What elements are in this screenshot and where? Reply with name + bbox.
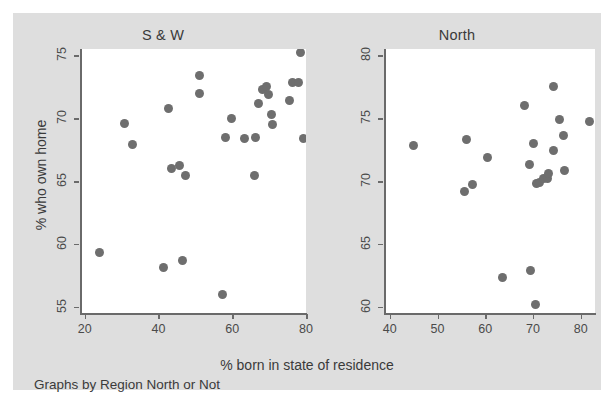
data-point	[520, 101, 529, 110]
data-point	[181, 171, 190, 180]
data-point	[195, 89, 204, 98]
data-point	[462, 135, 471, 144]
data-point	[95, 248, 104, 257]
y-tick-0	[74, 55, 79, 57]
x-tick-1	[533, 314, 535, 319]
y-tick-0	[74, 244, 79, 246]
data-point	[549, 146, 558, 155]
data-point	[240, 134, 249, 143]
data-point	[294, 78, 303, 87]
y-tick-label-0: 75	[55, 41, 69, 67]
panel-north: North	[313, 13, 601, 390]
data-point	[526, 266, 535, 275]
data-point	[159, 263, 168, 272]
x-tick-0	[232, 314, 234, 319]
data-point	[251, 133, 260, 142]
panel-title-north: North	[313, 27, 601, 43]
x-tick-1	[581, 314, 583, 319]
data-point	[468, 180, 477, 189]
y-tick-0	[74, 181, 79, 183]
data-point	[227, 114, 236, 123]
y-axis-line-0	[80, 49, 82, 313]
y-tick-label-1: 75	[359, 104, 373, 130]
graph-canvas: S & W North % who own home % born in sta…	[13, 13, 601, 390]
data-point	[120, 119, 129, 128]
x-tick-label-1: 40	[375, 322, 405, 336]
x-tick-0	[306, 314, 308, 319]
y-tick-label-0: 70	[55, 104, 69, 130]
x-axis-line-0	[80, 313, 307, 315]
x-tick-0	[85, 314, 87, 319]
data-point	[531, 300, 540, 309]
y-tick-label-0: 60	[55, 230, 69, 256]
x-tick-label-1: 80	[566, 322, 596, 336]
y-tick-label-1: 80	[359, 41, 373, 67]
x-tick-label-1: 50	[423, 322, 453, 336]
data-point	[549, 82, 558, 91]
y-tick-label-0: 65	[55, 167, 69, 193]
x-tick-1	[438, 314, 440, 319]
y-tick-label-1: 70	[359, 167, 373, 193]
data-point	[285, 96, 294, 105]
data-point	[221, 133, 230, 142]
y-axis-title: % who own home	[33, 75, 49, 275]
data-point	[585, 117, 594, 126]
y-axis-line-1	[384, 49, 386, 313]
data-point	[555, 115, 564, 124]
data-point	[164, 104, 173, 113]
data-point	[250, 171, 259, 180]
data-point	[498, 273, 507, 282]
x-axis-title: % born in state of residence	[13, 357, 601, 373]
data-point	[529, 139, 538, 148]
y-tick-1	[378, 181, 383, 183]
x-tick-1	[485, 314, 487, 319]
x-tick-label-1: 60	[470, 322, 500, 336]
data-point	[544, 169, 553, 178]
y-tick-label-1: 60	[359, 293, 373, 319]
x-tick-label-1: 70	[518, 322, 548, 336]
x-axis-line-1	[384, 313, 596, 315]
data-point	[525, 160, 534, 169]
data-point	[195, 71, 204, 80]
plot-region-s-and-w	[81, 49, 306, 313]
y-tick-0	[74, 118, 79, 120]
data-point	[409, 141, 418, 150]
data-point	[175, 161, 184, 170]
data-point	[299, 134, 306, 143]
x-tick-label-0: 60	[217, 322, 247, 336]
x-tick-label-0: 80	[291, 322, 321, 336]
data-point	[460, 187, 469, 196]
plot-region-north	[385, 49, 595, 313]
y-tick-0	[74, 307, 79, 309]
data-point	[560, 166, 569, 175]
data-point	[254, 99, 263, 108]
y-tick-1	[378, 307, 383, 309]
y-tick-1	[378, 55, 383, 57]
data-point	[264, 90, 273, 99]
x-tick-0	[158, 314, 160, 319]
data-point	[483, 153, 492, 162]
data-point	[268, 120, 277, 129]
x-tick-label-0: 20	[70, 322, 100, 336]
data-point	[178, 256, 187, 265]
graph-footnote: Graphs by Region North or Not	[34, 377, 220, 392]
y-tick-1	[378, 118, 383, 120]
data-point	[267, 110, 276, 119]
y-tick-label-1: 65	[359, 230, 373, 256]
x-tick-label-0: 40	[143, 322, 173, 336]
data-point	[559, 131, 568, 140]
x-tick-1	[390, 314, 392, 319]
data-point	[296, 49, 305, 57]
y-tick-1	[378, 244, 383, 246]
data-point	[128, 140, 137, 149]
data-point	[218, 290, 227, 299]
y-tick-label-0: 55	[55, 293, 69, 319]
